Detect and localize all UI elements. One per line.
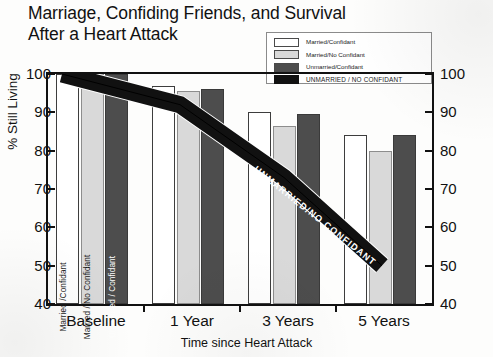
- y-tick-label-right-80: 80: [440, 143, 474, 158]
- x-tick-label-3-years: 3 Years: [240, 312, 336, 329]
- legend-swatch-married-no-confidant: [274, 50, 299, 59]
- y-tick-label-right-90: 90: [440, 104, 474, 119]
- y-tick-label-right-100: 100: [440, 66, 474, 81]
- band-annotation-holder: UNMARRIED/NO CONFIDANT: [48, 74, 432, 304]
- y-tick-label-left-40: 40: [17, 296, 51, 311]
- legend-label-married-no-confidant: Married/No Confidant: [306, 51, 365, 59]
- legend-swatch-married-confidant: [274, 38, 299, 47]
- legend-label-married-confidant: Married/Confidant: [306, 38, 355, 46]
- y-tick-label-left-100: 100: [17, 66, 51, 81]
- y-tick-label-right-40: 40: [440, 296, 474, 311]
- x-tick-label-baseline: Baseline: [48, 312, 144, 329]
- plot-area: Married /ConfidantMarried / No Confidant…: [46, 72, 434, 306]
- y-tick-label-right-50: 50: [440, 258, 474, 273]
- y-tick-label-right-70: 70: [440, 181, 474, 196]
- x-axis-title: Time since Heart Attack: [0, 336, 493, 350]
- y-tick-label-left-50: 50: [17, 258, 51, 273]
- x-tick-label-5-years: 5 Years: [336, 312, 432, 329]
- plot-inner: Married /ConfidantMarried / No Confidant…: [48, 74, 432, 304]
- legend-swatch-unmarried-confidant: [274, 63, 299, 72]
- legend-label-unmarried-confidant: Unmarried/Confidant: [306, 63, 363, 71]
- band-annotation-label: UNMARRIED/NO CONFIDANT: [252, 164, 378, 267]
- y-tick-label-left-80: 80: [17, 143, 51, 158]
- y-tick-label-right-60: 60: [440, 219, 474, 234]
- y-tick-label-left-60: 60: [17, 219, 51, 234]
- legend-item-married-no-confidant: Married/No Confidant: [274, 49, 431, 61]
- x-tick-label-1-year: 1 Year: [144, 312, 240, 329]
- y-tick-label-left-70: 70: [17, 181, 51, 196]
- legend-item-married-confidant: Married/Confidant: [274, 36, 431, 48]
- y-tick-label-left-90: 90: [17, 104, 51, 119]
- chart-screenshot: Marriage, Confiding Friends, and Surviva…: [0, 0, 493, 357]
